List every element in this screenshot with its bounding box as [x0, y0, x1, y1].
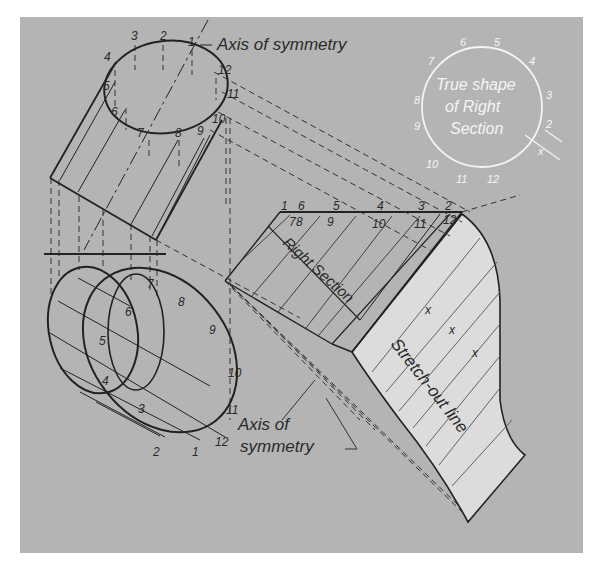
ts-num-4: 4 [529, 55, 535, 67]
fv-num-1: 1 [192, 445, 199, 459]
rs-num-10: 10 [372, 217, 386, 231]
tv-num-7: 7 [137, 126, 145, 140]
fv-num-4: 4 [102, 374, 109, 388]
tv-num-9: 9 [197, 124, 204, 138]
rs-num-9: 9 [327, 215, 334, 229]
rs-num-3: 3 [418, 199, 425, 213]
fv-num-12: 12 [215, 435, 229, 449]
ts-num-12: 12 [487, 173, 499, 185]
right-section-top-numbers: 1 6 5 4 3 2 [281, 199, 452, 213]
tv-num-2: 2 [159, 29, 167, 43]
ts-num-10: 10 [426, 158, 439, 170]
fv-num-11: 11 [226, 403, 238, 417]
tv-num-11: 11 [227, 87, 239, 101]
tv-num-10: 10 [212, 112, 226, 126]
ts-num-5: 5 [494, 36, 501, 48]
tv-num-3: 3 [131, 29, 138, 43]
axis-of-symmetry-bottom-line1: Axis of [237, 415, 291, 434]
tv-num-12: 12 [218, 63, 232, 77]
ts-num-7: 7 [428, 55, 435, 67]
fv-num-7: 7 [147, 277, 155, 291]
true-shape-line2: of Right [445, 98, 501, 115]
true-shape-line3: Section [450, 120, 503, 137]
tv-num-1: 1 [188, 35, 195, 49]
front-view-cylinder [37, 237, 269, 463]
rs-num-8: 8 [296, 215, 303, 229]
ts-num-9: 9 [414, 120, 420, 132]
tv-num-8: 8 [175, 126, 182, 140]
x-mark-3: x [471, 346, 479, 360]
tv-num-5: 5 [103, 79, 110, 93]
rs-num-6: 6 [298, 199, 305, 213]
true-shape-line1: True shape [436, 76, 516, 93]
rs-num-11: 11 [414, 217, 426, 231]
axis-of-symmetry-bottom-line2: symmetry [240, 437, 315, 456]
development-pattern [352, 214, 525, 522]
fv-num-8: 8 [178, 295, 185, 309]
true-shape-label: True shape of Right Section [436, 76, 516, 137]
tv-num-4: 4 [104, 50, 111, 64]
oblique-cylinder-development-drawing: 6 5 4 3 2 7 8 9 10 11 12 x True shape of… [0, 0, 598, 568]
right-section-bottom-numbers: 7 8 9 10 11 12 [289, 213, 457, 231]
rs-num-5: 5 [333, 199, 340, 213]
rs-num-4: 4 [377, 199, 384, 213]
fv-num-3: 3 [138, 402, 145, 416]
axis-of-symmetry-top-label: Axis of symmetry [216, 35, 348, 54]
fv-num-10: 10 [228, 366, 242, 380]
rs-num-12: 12 [443, 213, 457, 227]
ts-num-2: 2 [545, 118, 552, 130]
rs-num-1: 1 [281, 199, 288, 213]
rs-num-2: 2 [444, 199, 452, 213]
fv-num-5: 5 [99, 334, 106, 348]
fv-num-6: 6 [125, 305, 132, 319]
ts-x-mark: x [537, 145, 544, 157]
tv-num-6: 6 [111, 105, 118, 119]
x-mark-1: x [424, 303, 432, 317]
ts-num-8: 8 [414, 94, 421, 106]
ts-num-3: 3 [546, 89, 553, 101]
fv-num-9: 9 [209, 323, 216, 337]
ts-num-11: 11 [456, 173, 467, 185]
fv-num-2: 2 [152, 445, 160, 459]
ts-num-6: 6 [460, 36, 467, 48]
x-mark-2: x [448, 323, 456, 337]
